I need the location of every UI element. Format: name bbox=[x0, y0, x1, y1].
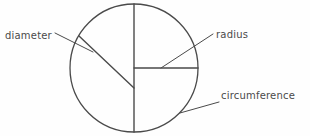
label-circumference: circumference bbox=[221, 90, 295, 101]
diagram-canvas bbox=[0, 0, 310, 136]
circumference-leader-line bbox=[180, 102, 219, 113]
diagonal-chord-line bbox=[79, 36, 134, 88]
radius-leader-line bbox=[161, 34, 213, 68]
label-radius: radius bbox=[216, 29, 248, 40]
circle-diagram: diameter radius circumference bbox=[0, 0, 310, 136]
diameter-leader-line bbox=[55, 33, 93, 52]
label-diameter: diameter bbox=[5, 30, 52, 41]
